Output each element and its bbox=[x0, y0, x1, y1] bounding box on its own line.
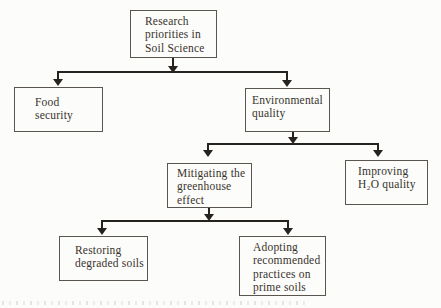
arrowhead-down-icon bbox=[203, 150, 213, 157]
arrowhead-down-icon bbox=[283, 228, 293, 235]
arrowhead-down-icon bbox=[53, 79, 63, 86]
node-environmental-quality: Environmental quality bbox=[245, 88, 330, 132]
node-improving-water-quality: Improving H₂O quality bbox=[345, 160, 428, 205]
cropped-caption-artifact bbox=[2, 301, 305, 305]
node-research-priorities-label: Research priorities in Soil Science bbox=[145, 15, 213, 55]
connector-line bbox=[286, 73, 288, 80]
node-improving-water-quality-label: Improving H₂O quality bbox=[358, 165, 425, 192]
connector-line bbox=[207, 143, 379, 145]
node-adopting-practices: Adopting recommended practices on prime … bbox=[239, 236, 326, 296]
arrowhead-down-icon bbox=[97, 228, 107, 235]
flowchart-canvas: Research priorities in Soil Science Food… bbox=[0, 0, 441, 308]
node-food-security-label: Food security bbox=[35, 96, 99, 123]
node-environmental-quality-label: Environmental quality bbox=[252, 94, 327, 121]
connector-line bbox=[57, 71, 288, 73]
node-food-security: Food security bbox=[14, 87, 103, 132]
node-restoring-degraded-soils: Restoring degraded soils bbox=[59, 236, 148, 281]
node-adopting-practices-label: Adopting recommended practices on prime … bbox=[253, 241, 323, 295]
node-mitigating-greenhouse: Mitigating the greenhouse effect bbox=[167, 163, 252, 208]
node-research-priorities: Research priorities in Soil Science bbox=[130, 10, 217, 58]
node-restoring-degraded-soils-label: Restoring degraded soils bbox=[75, 244, 145, 271]
connector-line bbox=[101, 220, 289, 222]
node-mitigating-greenhouse-label: Mitigating the greenhouse effect bbox=[177, 167, 249, 207]
connector-line bbox=[172, 58, 174, 66]
arrowhead-down-icon bbox=[282, 80, 292, 87]
arrowhead-down-icon bbox=[373, 150, 383, 157]
